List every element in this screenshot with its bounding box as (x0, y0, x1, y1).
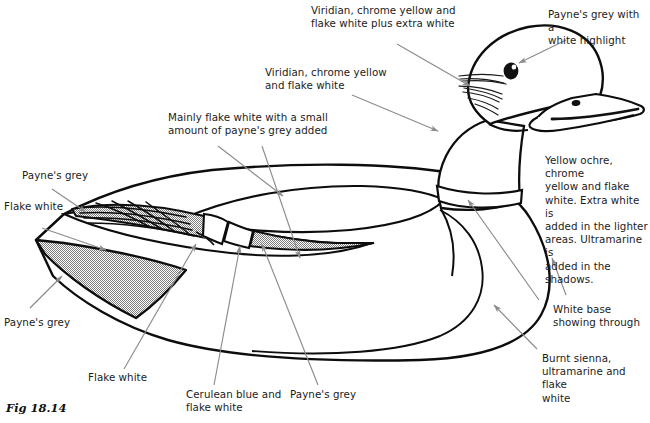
annotation-white-base: White base showing through (553, 303, 650, 329)
annotation-viridian-chrome-flake: Viridian, chrome yellow and flake white (265, 66, 415, 92)
figure-canvas: Viridian, chrome yellow and flake white … (0, 0, 650, 423)
annotation-paynes-grey-highlight: Payne's grey with a white highlight (548, 8, 648, 48)
leader-viridian-chrome-flake (352, 95, 438, 131)
annotation-burnt-sienna: Burnt sienna, ultramarine and flake whit… (542, 352, 648, 405)
eye-highlight (512, 64, 517, 69)
annotation-cerulean-blue: Cerulean blue and flake white (186, 388, 296, 414)
annotation-mainly-flake-white: Mainly flake white with a small amount o… (168, 111, 348, 137)
duck-eye (504, 63, 519, 80)
annotation-paynes-grey-bottom: Payne's grey (290, 388, 380, 401)
annotation-paynes-grey-lower-left: Payne's grey (4, 316, 94, 329)
figure-caption: Fig 18.14 (6, 401, 67, 415)
annotation-flake-white-upper-left: Flake white (4, 200, 94, 213)
leader-paynes-grey-lower-left (30, 276, 62, 308)
annotation-yellow-ochre-block: Yellow ochre, chrome yellow and flake wh… (545, 154, 649, 286)
annotation-viridian-extra-white: Viridian, chrome yellow and flake white … (311, 4, 481, 30)
annotation-paynes-grey-upper-left: Payne's grey (22, 169, 112, 182)
annotation-flake-white-bottom: Flake white (88, 371, 178, 384)
